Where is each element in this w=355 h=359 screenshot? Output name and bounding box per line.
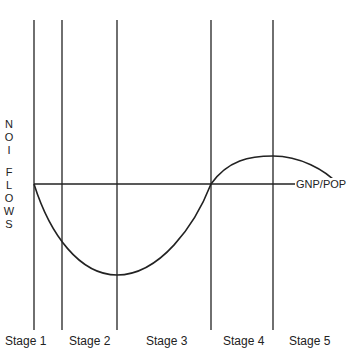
y-label-char: W	[2, 205, 16, 218]
stage-label-5: Stage 5	[289, 334, 330, 348]
y-label-char: I	[2, 144, 16, 157]
y-label-char: N	[2, 118, 16, 131]
y-label-char: O	[2, 192, 16, 205]
y-axis-label-flows: F L O W S	[2, 166, 16, 231]
stage-label-1: Stage 1	[5, 334, 46, 348]
y-label-char: O	[2, 131, 16, 144]
y-label-char: S	[2, 218, 16, 231]
stage-label-2: Stage 2	[69, 334, 110, 348]
x-axis-label: GNP/POP	[295, 178, 347, 190]
y-axis-label-noi: N O I	[2, 118, 16, 157]
noi-curve	[34, 156, 338, 275]
y-label-char: F	[2, 166, 16, 179]
stage-label-3: Stage 3	[146, 334, 187, 348]
y-label-char: L	[2, 179, 16, 192]
stage-label-4: Stage 4	[223, 334, 264, 348]
